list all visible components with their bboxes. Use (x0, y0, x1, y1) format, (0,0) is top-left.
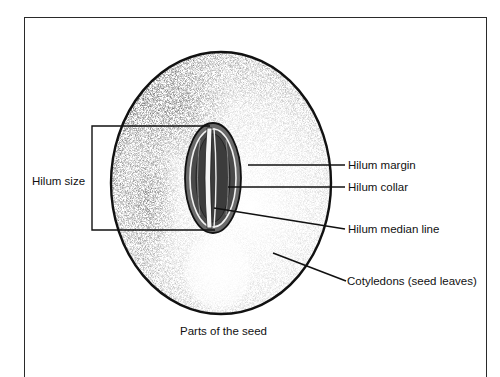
label-hilum-median-line: Hilum median line (348, 224, 439, 236)
figure-caption: Parts of the seed (180, 326, 267, 338)
hilum (185, 123, 241, 233)
label-hilum-margin: Hilum margin (348, 160, 416, 172)
cotyledon-region (182, 230, 254, 314)
label-hilum-collar: Hilum collar (348, 182, 408, 194)
label-cotyledons: Cotyledons (seed leaves) (347, 276, 477, 288)
label-hilum-size: Hilum size (32, 176, 85, 188)
